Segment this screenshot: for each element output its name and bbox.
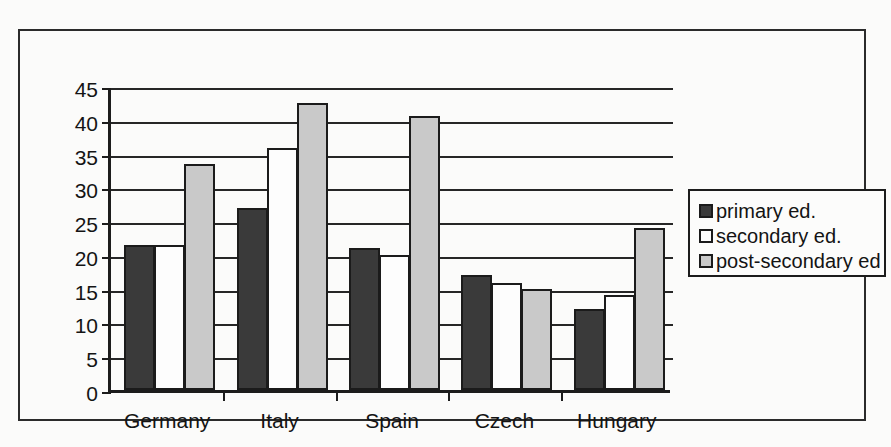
y-axis-tick [102,392,111,394]
bar-hungary-secondary [604,295,635,390]
x-axis-label-czech: Czech [475,410,535,431]
legend-item: primary ed. [699,198,884,223]
y-axis-tick [102,257,111,259]
bar-hungary-post [634,228,665,390]
bar-czech-post [521,289,552,390]
bar-spain-post [409,116,440,390]
y-axis-tick [102,122,111,124]
bar-group [461,86,551,390]
bar-group [124,86,214,390]
x-axis-label-hungary: Hungary [577,410,656,431]
y-axis-tick-label: 25 [75,214,98,235]
y-axis-tick-label: 15 [75,281,98,302]
light-gray-square-icon [699,254,713,268]
y-axis-tick [102,189,111,191]
bar-italy-post [297,103,328,390]
plot-area: 051015202530354045GermanyItalySpainCzech… [108,89,670,393]
bar-germany-post [184,164,215,390]
bar-group [237,86,327,390]
bar-hungary-primary [574,309,605,390]
y-axis-tick-label: 0 [86,383,98,404]
legend-item: post-secondary ed [699,248,884,273]
y-axis-tick-label: 10 [75,315,98,336]
x-axis-tick [223,390,225,401]
x-axis-tick [336,390,338,401]
bar-czech-secondary [491,283,522,390]
y-axis-tick-label: 5 [86,349,98,370]
y-axis-tick-label: 35 [75,146,98,167]
x-axis-label-spain: Spain [365,410,419,431]
bar-group [349,86,439,390]
bar-germany-primary [124,245,155,390]
bar-italy-primary [237,208,268,390]
y-axis-tick [102,324,111,326]
y-axis-tick-label: 30 [75,180,98,201]
y-axis-tick-label: 40 [75,112,98,133]
bar-group [574,86,664,390]
bar-spain-secondary [379,255,410,390]
white-square-icon [699,229,713,243]
y-axis-tick [102,291,111,293]
x-axis-tick [448,390,450,401]
y-axis-tick [102,88,111,90]
chart-legend: primary ed.secondary ed.post-secondary e… [688,189,886,277]
dark-gray-square-icon [699,204,713,218]
y-axis-tick [102,156,111,158]
legend-item-label: post-secondary ed [716,251,881,271]
chart-frame: 051015202530354045GermanyItalySpainCzech… [18,29,866,421]
legend-item-label: secondary ed. [716,226,842,246]
y-axis-tick-label: 45 [75,79,98,100]
x-axis-label-germany: Germany [124,410,210,431]
x-axis-label-italy: Italy [260,410,299,431]
legend-item-label: primary ed. [716,201,816,221]
y-axis-tick-label: 20 [75,247,98,268]
bar-spain-primary [349,248,380,390]
y-axis-tick [102,358,111,360]
bar-italy-secondary [267,148,298,390]
legend-item: secondary ed. [699,223,884,248]
bar-czech-primary [461,275,492,390]
bar-germany-secondary [154,245,185,390]
y-axis-tick [102,223,111,225]
x-axis-tick [561,390,563,401]
